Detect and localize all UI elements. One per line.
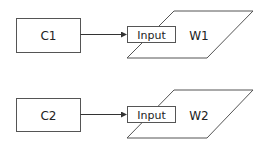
window-w2-label: W2 [189,109,209,123]
input-label-w1: Input [137,29,166,42]
component-c2-label: C2 [40,109,56,123]
row-1: C1 Input W1 [17,11,254,58]
component-c1-label: C1 [40,29,56,43]
window-w1-label: W1 [189,29,209,43]
input-label-w2: Input [137,109,166,122]
row-2: C2 Input W2 [17,90,254,138]
diagram-canvas: C1 Input W1 C2 Input W2 [0,0,265,144]
